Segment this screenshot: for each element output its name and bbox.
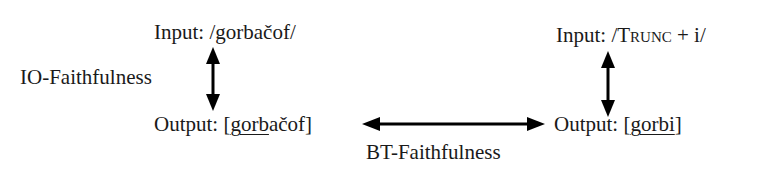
right-double-arrow-icon (601, 51, 615, 117)
faithfulness-diagram: Input: /gorbačof/ IO-Faithfulness Output… (0, 0, 762, 172)
io-double-arrow-icon (206, 47, 220, 111)
bt-double-arrow-icon (362, 117, 545, 131)
arrows-layer (0, 0, 762, 172)
